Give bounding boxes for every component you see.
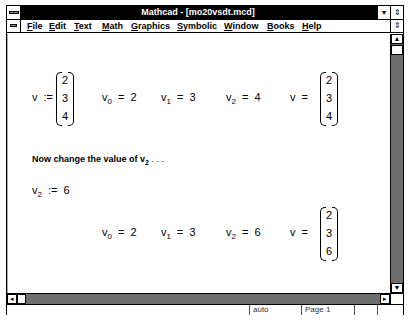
redef-val: 6 — [64, 184, 70, 196]
status-page: Page 1 — [301, 305, 354, 315]
menu-graphics[interactable]: Graphics — [131, 20, 170, 32]
matrix-cell: 2 — [62, 74, 68, 86]
minimize-icon: ▾ — [382, 8, 386, 17]
matrix-cell: 3 — [326, 227, 332, 239]
eval-sub: 2 — [232, 97, 236, 106]
status-cell-4 — [377, 305, 403, 315]
scrollbar-corner — [390, 293, 403, 304]
eval-op: = — [302, 226, 308, 238]
scroll-down-icon: ▼ — [394, 284, 401, 291]
redef-sub: 2 — [38, 190, 42, 199]
scroll-right-button[interactable]: ▸ — [380, 294, 390, 304]
scroll-up-icon: ▲ — [394, 35, 401, 42]
eval-var: v — [290, 226, 296, 238]
system-menu-icon — [9, 11, 19, 14]
mathcad-window: Mathcad - [mo20vsdt.mcd] ▾ ⇕ File Edit T… — [6, 5, 404, 315]
scroll-right-icon: ▸ — [383, 295, 387, 302]
minimize-button[interactable]: ▾ — [377, 6, 390, 19]
eval-v1-row2[interactable]: v1 = 3 — [161, 226, 196, 241]
menu-math-label: ath — [110, 21, 124, 31]
menu-edit-label: dit — [55, 21, 66, 31]
result-matrix-row1: 2 3 4 — [322, 72, 336, 124]
text-region-instruction[interactable]: Now change the value of v2 . . . — [32, 154, 164, 166]
redefinition-v2[interactable]: v2 := 6 — [32, 184, 70, 199]
system-menu-button[interactable] — [7, 6, 21, 19]
definition-matrix[interactable]: 2 3 4 — [58, 72, 72, 124]
eval-op: = — [177, 226, 183, 238]
matrix-cell: 2 — [326, 74, 332, 86]
eval-val: 2 — [131, 226, 137, 238]
status-bar: auto Page 1 — [7, 304, 403, 315]
scroll-down-button[interactable]: ▼ — [391, 283, 403, 293]
restore-icon: ⇕ — [394, 8, 401, 17]
eval-v2-row1[interactable]: v2 = 4 — [226, 91, 261, 106]
matrix-cell: 6 — [326, 245, 332, 257]
def-var: v — [32, 91, 38, 103]
eval-sub: 1 — [167, 97, 171, 106]
vertical-scrollbar[interactable]: ▲ ▼ — [390, 34, 403, 293]
eval-op: = — [118, 91, 124, 103]
worksheet[interactable]: v := 2 3 4 v0 = 2 v1 = 3 v2 = 4 v = 2 — [7, 34, 390, 293]
eval-val: 6 — [255, 226, 261, 238]
menu-text-label: ext — [79, 21, 92, 31]
title-bar: Mathcad - [mo20vsdt.mcd] ▾ ⇕ — [7, 6, 403, 20]
eval-sub: 1 — [167, 232, 171, 241]
menu-books[interactable]: Books — [267, 20, 295, 32]
document-system-menu-icon — [10, 24, 17, 27]
vertical-scroll-thumb[interactable] — [391, 45, 403, 55]
eval-v0-row2[interactable]: v0 = 2 — [102, 226, 137, 241]
result-matrix-row2: 2 3 6 — [322, 207, 336, 259]
menu-text[interactable]: Text — [74, 20, 92, 32]
window-title: Mathcad - [mo20vsdt.mcd] — [21, 6, 375, 19]
menu-math[interactable]: Math — [102, 20, 123, 32]
menu-math-accel: M — [102, 21, 110, 31]
menu-bar: File Edit Text Math Graphics Symbolic Wi… — [7, 20, 403, 33]
eval-val: 3 — [190, 91, 196, 103]
eval-op: = — [302, 91, 308, 103]
status-mode: auto — [249, 305, 301, 315]
horizontal-scrollbar[interactable]: ◂ ▸ — [7, 293, 390, 304]
eval-var: v — [290, 91, 296, 103]
eval-op: = — [242, 91, 248, 103]
eval-op: = — [177, 91, 183, 103]
scroll-left-icon: ◂ — [10, 295, 14, 302]
redef-op: := — [48, 184, 57, 196]
menu-symbolic-label: ymbolic — [183, 21, 217, 31]
menu-graphics-accel: G — [131, 21, 138, 31]
scroll-left-button[interactable]: ◂ — [7, 294, 17, 304]
eval-val: 3 — [190, 226, 196, 238]
document-restore-button[interactable]: ⇕ — [390, 20, 403, 32]
eval-op: = — [242, 226, 248, 238]
eval-v1-row1[interactable]: v1 = 3 — [161, 91, 196, 106]
menu-edit[interactable]: Edit — [49, 20, 66, 32]
menu-symbolic[interactable]: Symbolic — [177, 20, 217, 32]
def-op: := — [44, 91, 53, 103]
menu-help-label: elp — [309, 21, 322, 31]
status-cell-3 — [354, 305, 377, 315]
instruction-text: Now change the value of v — [32, 154, 145, 164]
eval-sub: 2 — [232, 232, 236, 241]
eval-val: 4 — [255, 91, 261, 103]
definition-v[interactable]: v := — [32, 91, 53, 103]
matrix-cell: 2 — [326, 209, 332, 221]
menu-graphics-label: raphics — [138, 21, 170, 31]
instruction-suffix: . . . — [149, 154, 164, 164]
document-system-menu-button[interactable] — [7, 20, 21, 32]
eval-v-row2[interactable]: v = — [290, 226, 308, 238]
menu-books-label: ooks — [274, 21, 295, 31]
eval-v-row1[interactable]: v = — [290, 91, 308, 103]
matrix-cell: 3 — [326, 92, 332, 104]
eval-v0-row1[interactable]: v0 = 2 — [102, 91, 137, 106]
menu-window[interactable]: Window — [224, 20, 258, 32]
menu-file[interactable]: File — [27, 20, 43, 32]
restore-button[interactable]: ⇕ — [390, 6, 403, 19]
matrix-cell: 4 — [326, 110, 332, 122]
matrix-cell: 3 — [62, 92, 68, 104]
eval-val: 2 — [131, 91, 137, 103]
scroll-up-button[interactable]: ▲ — [391, 34, 403, 44]
eval-sub: 0 — [108, 232, 112, 241]
horizontal-scroll-thumb[interactable] — [17, 294, 26, 304]
menu-help[interactable]: Help — [302, 20, 322, 32]
matrix-cell: 4 — [62, 110, 68, 122]
eval-v2-row2[interactable]: v2 = 6 — [226, 226, 261, 241]
